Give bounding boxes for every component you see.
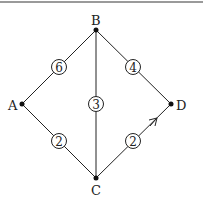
graph-diagram: 6 4 3 2 2 A B C D — [0, 0, 203, 210]
node-d — [169, 102, 174, 107]
weight-b-d: 4 — [129, 61, 137, 75]
node-label-d: D — [176, 98, 186, 113]
weight-a-c: 2 — [55, 135, 63, 149]
weight-b-c: 3 — [92, 98, 100, 112]
weight-a-b: 6 — [55, 61, 63, 75]
node-label-c: C — [91, 183, 101, 198]
weight-c-d: 2 — [129, 135, 137, 149]
node-b — [94, 28, 99, 33]
node-a — [20, 102, 25, 107]
node-label-a: A — [7, 98, 18, 113]
node-label-b: B — [91, 13, 101, 28]
node-c — [94, 176, 99, 181]
